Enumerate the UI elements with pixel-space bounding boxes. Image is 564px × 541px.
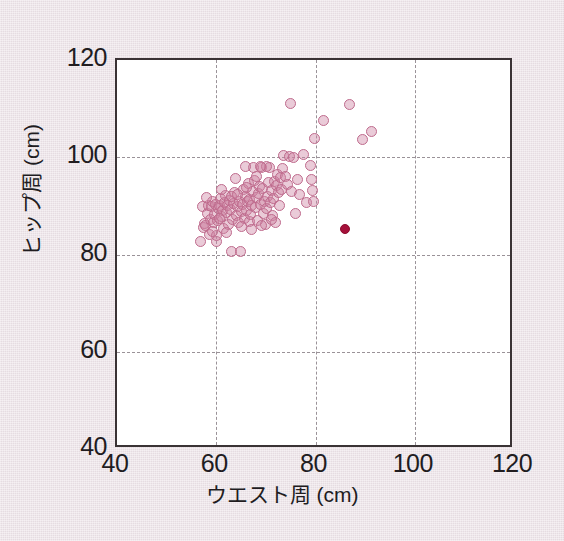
gridline-vertical [415,60,416,445]
data-point [213,203,224,214]
data-point [257,183,268,194]
data-point [269,176,280,187]
data-point [255,161,266,172]
x-tick-label: 60 [179,449,249,478]
data-point [272,169,283,180]
data-point [243,178,254,189]
data-point [229,187,240,198]
data-point [242,196,253,207]
x-tick-label: 100 [378,449,448,478]
gridline-horizontal [117,255,510,256]
data-points-layer [117,60,510,445]
x-tick-label: 80 [279,449,349,478]
x-tick-label: 40 [80,449,150,478]
data-point [271,180,282,191]
data-point [224,195,235,206]
data-point [266,185,277,196]
data-point [309,133,320,144]
data-point [308,196,319,207]
data-point [260,219,271,230]
data-point [221,227,232,238]
data-point [205,214,216,225]
data-point [206,201,217,212]
gridline-vertical [216,60,217,445]
gridline-horizontal [117,352,510,353]
data-point [211,236,222,247]
data-point [282,179,293,190]
data-point [253,188,264,199]
data-point [263,177,274,188]
data-point [273,187,284,198]
data-point [219,197,230,208]
data-point [215,193,226,204]
data-point [244,216,255,227]
data-point [301,197,312,208]
data-point [230,173,241,184]
data-point [357,134,368,145]
data-point [258,208,269,219]
data-point [221,207,232,218]
data-point [234,196,245,207]
data-point [204,229,215,240]
data-point [286,186,297,197]
data-point [231,210,242,221]
data-point [223,219,234,230]
data-point [259,196,270,207]
data-point [222,200,233,211]
data-point [203,200,214,211]
data-point [218,223,229,234]
data-point [294,189,305,200]
data-point [270,217,281,228]
data-point [199,218,210,229]
x-tick-label: 120 [477,449,547,478]
data-point [366,126,377,137]
data-point [268,193,279,204]
data-point [255,199,266,210]
gridline-vertical [316,60,317,445]
data-point [233,217,244,228]
data-point [298,149,309,160]
y-tick-label: 60 [49,335,107,364]
y-axis-title-wrapper: ヒップ周 (cm) [15,10,45,370]
data-point [261,203,272,214]
data-point [284,151,295,162]
data-point [251,192,262,203]
data-point [214,200,225,211]
data-point [267,210,278,221]
data-point [249,175,260,186]
data-point [292,174,303,185]
plot-area [115,58,512,447]
data-point [216,184,227,195]
data-point [262,191,273,202]
data-point [266,214,277,225]
data-point [306,174,317,185]
y-tick-label: 100 [49,140,107,169]
scatter-plot-figure: 406080100120 406080100120 ヒップ周 (cm) ウエスト… [0,0,564,541]
data-point [251,171,262,182]
data-point [264,162,275,173]
data-point [254,181,265,192]
data-point-highlight [340,224,350,234]
data-point [225,204,236,215]
data-point [278,150,289,161]
data-point [290,208,301,219]
data-point [210,199,221,210]
data-point [226,191,237,202]
y-tick-label: 80 [49,238,107,267]
data-point [200,220,211,231]
data-point [247,186,258,197]
data-point [211,230,222,241]
data-point [241,205,252,216]
figure-caption [24,528,544,541]
data-point [208,217,219,228]
x-axis-title: ウエスト周 (cm) [0,478,564,508]
data-point [265,197,276,208]
data-point [236,221,247,232]
data-point [207,196,218,207]
data-point [216,211,227,222]
data-point [285,98,296,109]
data-point [232,189,243,200]
data-point [197,201,208,212]
data-point [217,205,228,216]
data-point [202,208,213,219]
